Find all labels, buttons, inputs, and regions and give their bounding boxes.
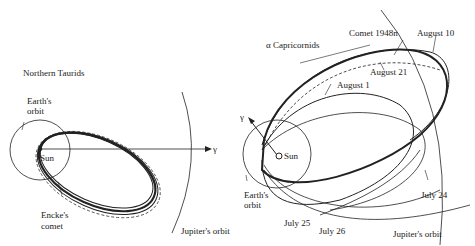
july-24-label: July 24 (421, 190, 447, 200)
left-jupiter-label: Jupiter's orbit (181, 226, 230, 236)
left-comet-label-line2: comet (41, 221, 63, 231)
left-comet-label-line1: Encke's (41, 210, 69, 220)
july-25-label: July 25 (284, 218, 310, 228)
right-earth-orbit-label-line1: Earth's (244, 190, 269, 200)
august-21-label: August 21 (370, 67, 407, 77)
comet-1948n-label: Comet 1948n (349, 28, 398, 38)
left-panel-title: Northern Taurids (23, 68, 84, 78)
right-sun-label: Sun (284, 151, 298, 161)
july-26-label: July 26 (319, 226, 345, 236)
left-sun-label: Sun (40, 153, 54, 163)
left-jupiter-orbit (172, 92, 191, 233)
left-earth-orbit-label-line1: Earth's (27, 96, 52, 106)
right-earth-orbit-label-line2: orbit (244, 200, 261, 210)
right-gamma-label: γ (240, 112, 244, 122)
right-jupiter-label: Jupiter's orbit (393, 229, 442, 239)
august-1-label: August 1 (337, 80, 370, 90)
august-10-label: August 10 (417, 28, 454, 38)
left-earth-orbit-label-line2: orbit (27, 106, 44, 116)
right-panel-title: α Capricornids (266, 40, 319, 50)
left-gamma-label: γ (213, 144, 217, 154)
orbit-diagram (0, 0, 475, 246)
right-jupiter-orbit (381, 10, 443, 245)
